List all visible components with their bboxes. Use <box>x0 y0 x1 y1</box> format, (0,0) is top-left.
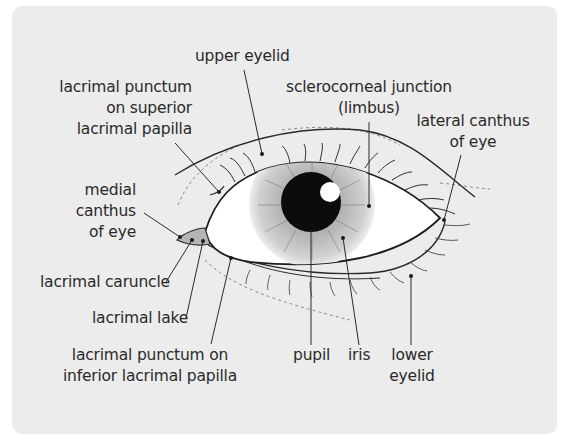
label-lacrimal-caruncle: lacrimal caruncle <box>40 272 170 293</box>
label-line: lateral canthus <box>412 111 534 132</box>
label-line: canthus <box>60 201 136 222</box>
label-lacrimal-lake: lacrimal lake <box>92 308 188 329</box>
label-line: eyelid <box>385 366 439 387</box>
label-lower-eyelid: lower eyelid <box>385 345 439 387</box>
label-upper-eyelid: upper eyelid <box>195 46 290 67</box>
label-lacrimal-punctum-superior: lacrimal punctum on superior lacrimal pa… <box>40 77 192 140</box>
label-line: on superior <box>40 98 192 119</box>
label-line: of eye <box>60 222 136 243</box>
label-line: inferior lacrimal papilla <box>55 366 245 387</box>
label-line: lacrimal punctum on <box>55 345 245 366</box>
label-iris: iris <box>348 345 370 366</box>
label-line: medial <box>60 180 136 201</box>
caruncle-shape <box>177 228 210 245</box>
label-lacrimal-punctum-inferior: lacrimal punctum on inferior lacrimal pa… <box>55 345 245 387</box>
label-medial-canthus: medial canthus of eye <box>60 180 136 243</box>
light-reflection <box>320 182 340 202</box>
label-line: lower <box>385 345 439 366</box>
label-line: lacrimal papilla <box>40 119 192 140</box>
label-pupil: pupil <box>293 345 330 366</box>
label-line: lacrimal punctum <box>40 77 192 98</box>
label-lateral-canthus: lateral canthus of eye <box>412 111 534 153</box>
pupil-shape <box>281 172 341 232</box>
label-line: sclerocorneal junction <box>283 77 455 98</box>
label-line: of eye <box>412 132 534 153</box>
